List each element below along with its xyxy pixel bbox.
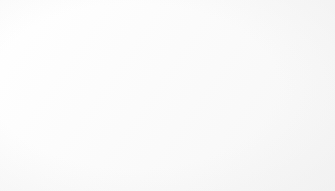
pie-chart-plot-area: 55% 21% 16% 8% — [0, 0, 210, 191]
legend-swatch-icon — [223, 64, 230, 71]
legend-swatch-icon — [223, 84, 230, 91]
legend-item-label: Other uses — [236, 123, 289, 136]
pie-label-zinc-based-alloys: 21% — [42, 116, 65, 130]
pie-slices — [19, 20, 169, 166]
legend-item-galvanizing[interactable]: Galvanizing — [223, 57, 335, 78]
pie-label-galvanizing: 55% — [131, 96, 154, 110]
pie-label-other-uses: 8% — [73, 41, 90, 55]
legend-swatch-icon — [223, 105, 230, 112]
legend-item-brass-and-bronze[interactable]: Brass and bronze — [223, 98, 335, 119]
legend-item-label: Galvanizing — [236, 61, 297, 74]
pie-chart-svg: 55% 21% 16% 8% — [0, 0, 210, 191]
legend-swatch-icon — [223, 125, 230, 132]
pie-chart-figure: 55% 21% 16% 8% Galvanizing Zinc-based al… — [0, 0, 335, 191]
legend-item-zinc-based-alloys[interactable]: Zinc-based alloys — [223, 78, 335, 99]
pie-label-brass-and-bronze: 16% — [41, 62, 64, 76]
chart-legend: Galvanizing Zinc-based alloys Brass and … — [223, 57, 335, 139]
legend-item-other-uses[interactable]: Other uses — [223, 119, 335, 140]
legend-item-label: Zinc-based alloys — [236, 82, 325, 95]
legend-item-label: Brass and bronze — [236, 102, 322, 115]
